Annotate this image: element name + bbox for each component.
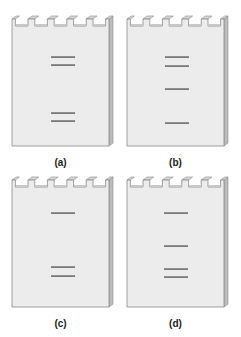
dna-band (165, 65, 189, 67)
dna-band (164, 245, 188, 247)
dna-band (165, 88, 189, 90)
dna-band (51, 64, 75, 66)
gel-panel (127, 15, 228, 150)
dna-band (51, 212, 75, 214)
dna-band (164, 268, 188, 270)
panel-label: (b) (156, 157, 196, 168)
dna-band (51, 56, 75, 58)
dna-band (51, 275, 75, 277)
dna-band (164, 212, 188, 214)
panel-label: (c) (41, 318, 81, 329)
dna-band (51, 120, 75, 122)
gel-panel (127, 176, 228, 311)
dna-band (165, 122, 189, 124)
dna-band (165, 56, 189, 58)
panel-label: (a) (41, 157, 81, 168)
gel-panel (12, 176, 113, 311)
dna-band (51, 112, 75, 114)
dna-band (51, 266, 75, 268)
panel-label: (d) (156, 318, 196, 329)
gel-panel (12, 15, 113, 150)
dna-band (164, 276, 188, 278)
